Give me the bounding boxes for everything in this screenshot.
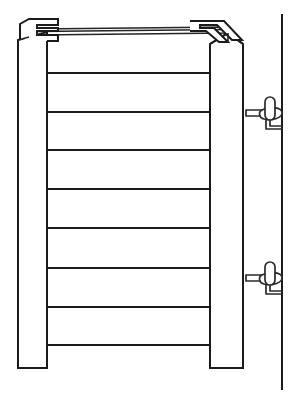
hinge-lower-return-leg-inner <box>270 286 282 291</box>
technical-drawing-canvas: Gate Assembly Elevation <box>0 0 298 400</box>
hinge-upper-return-leg <box>266 120 282 129</box>
hinge-upper-return-leg-inner <box>270 121 282 126</box>
hinge-lower-group <box>246 262 282 294</box>
right-post-body <box>210 33 243 368</box>
left-post-group <box>18 19 58 368</box>
hinge-lower-return-leg <box>266 285 282 294</box>
right-post-clip-bracket <box>190 21 242 42</box>
left-post-body <box>18 32 47 368</box>
hinge-lower-pin <box>265 262 275 285</box>
rails-group <box>47 73 210 345</box>
hinge-upper-group <box>246 97 282 129</box>
hinge-upper-pin <box>265 97 275 120</box>
gate-assembly-svg <box>0 0 298 400</box>
